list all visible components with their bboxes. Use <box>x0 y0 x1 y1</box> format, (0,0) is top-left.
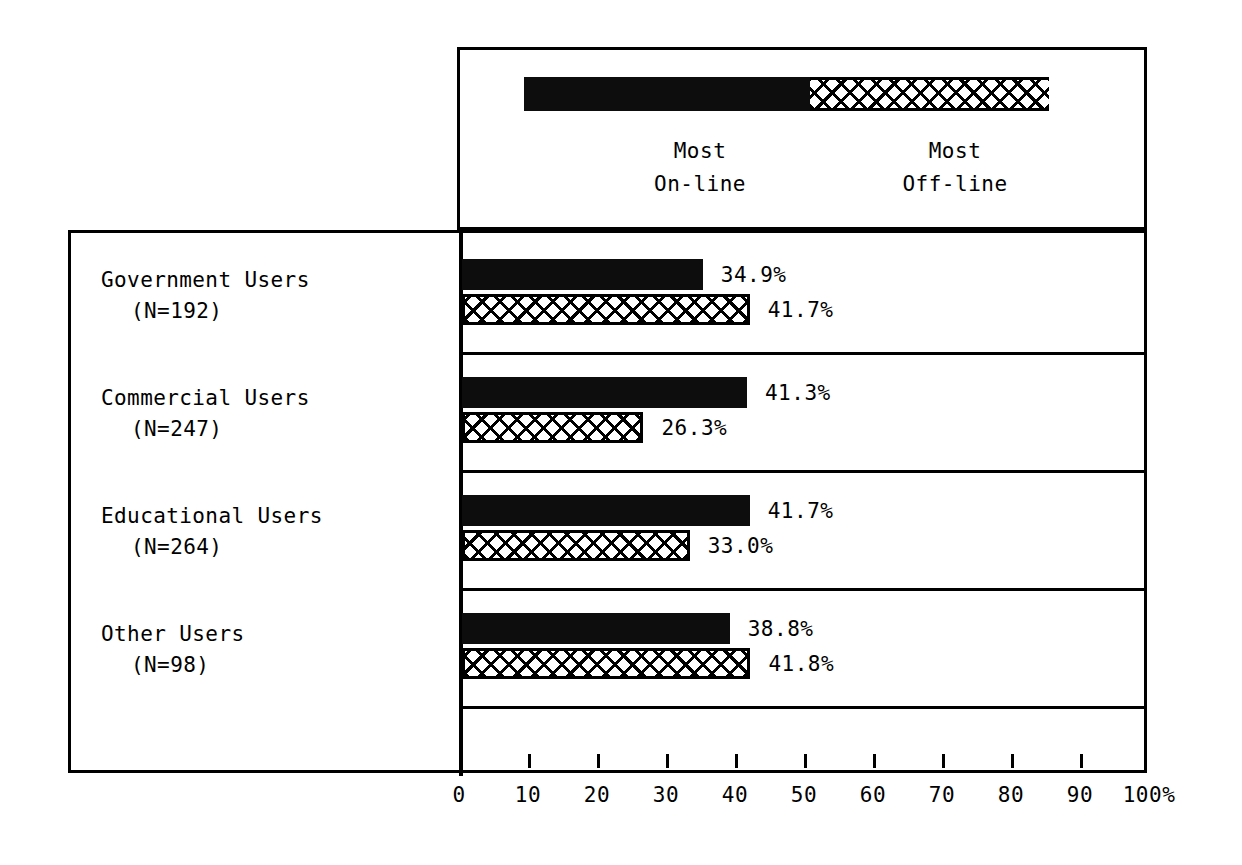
legend-label-most-online-line2: On-line <box>654 172 746 196</box>
x-axis-tick-label: 90 <box>1067 783 1093 807</box>
chart-row-bars: 34.9%41.7% <box>462 237 1144 355</box>
x-axis-tick <box>735 754 738 768</box>
x-axis-tick <box>1011 754 1014 768</box>
chart-row-sample-size: (N=247) <box>71 414 456 445</box>
bar-value-most-online: 38.8% <box>748 617 814 641</box>
bar-most-offline <box>462 530 690 561</box>
bar-most-offline <box>462 294 750 325</box>
legend-label-most-online-line1: Most <box>674 139 727 163</box>
bar-value-most-offline: 26.3% <box>661 416 727 440</box>
legend-label-most-offline: MostOff-line <box>865 135 1045 201</box>
x-axis-tick <box>873 754 876 768</box>
legend-label-most-offline-line1: Most <box>929 139 982 163</box>
bar-group-most-offline: 41.7% <box>462 294 833 325</box>
chart-row-sample-size: (N=264) <box>71 532 456 563</box>
chart-row-bars: 41.7%33.0% <box>462 473 1144 591</box>
chart-rows: Government Users(N=192)34.9%41.7%Commerc… <box>71 233 1144 770</box>
chart-row-category-name: Commercial Users <box>71 383 456 414</box>
x-axis-tick-label: 60 <box>860 783 886 807</box>
bar-group-most-offline: 33.0% <box>462 530 773 561</box>
chart-row-label: Commercial Users(N=247) <box>71 355 456 473</box>
bar-value-most-online: 41.3% <box>765 381 831 405</box>
chart-row: Government Users(N=192)34.9%41.7% <box>71 237 1144 355</box>
chart-row-label: Educational Users(N=264) <box>71 473 456 591</box>
chart-row-category-name: Other Users <box>71 619 456 650</box>
bar-value-most-offline: 41.8% <box>768 652 834 676</box>
bar-value-most-offline: 41.7% <box>768 298 834 322</box>
bar-group-most-offline: 41.8% <box>462 648 834 679</box>
x-axis-tick <box>942 754 945 768</box>
x-axis-tick <box>597 754 600 768</box>
legend-label-most-online: MostOn-line <box>610 135 790 201</box>
bar-most-online <box>462 613 730 644</box>
bar-group-most-online: 34.9% <box>462 259 787 290</box>
x-axis-tick <box>804 754 807 768</box>
chart-row-separator <box>460 706 1144 709</box>
chart-row-label: Other Users(N=98) <box>71 591 456 709</box>
x-axis-tick-label: 30 <box>653 783 679 807</box>
chart-row-sample-size: (N=98) <box>71 650 456 681</box>
chart-plot-frame: Government Users(N=192)34.9%41.7%Commerc… <box>68 230 1147 773</box>
x-axis-tick-label: 0 <box>452 783 465 807</box>
bar-most-offline <box>462 648 750 679</box>
x-axis-tick-label: 20 <box>584 783 610 807</box>
bar-group-most-online: 41.3% <box>462 377 831 408</box>
legend-captions: MostOn-line MostOff-line <box>460 135 1144 205</box>
chart-row: Commercial Users(N=247)41.3%26.3% <box>71 355 1144 473</box>
x-axis-tick-label: 40 <box>722 783 748 807</box>
bar-value-most-online: 41.7% <box>768 499 834 523</box>
bar-most-offline <box>462 412 643 443</box>
chart-row-category-name: Educational Users <box>71 501 456 532</box>
bar-group-most-online: 41.7% <box>462 495 833 526</box>
x-axis-tick-label: 70 <box>929 783 955 807</box>
chart-row-category-name: Government Users <box>71 265 456 296</box>
bar-group-most-online: 38.8% <box>462 613 813 644</box>
chart-row: Educational Users(N=264)41.7%33.0% <box>71 473 1144 591</box>
legend-swatch-most-offline <box>810 77 1049 111</box>
x-axis-tick-label: 100% <box>1123 783 1176 807</box>
legend-label-most-offline-line2: Off-line <box>902 172 1007 196</box>
bar-most-online <box>462 377 747 408</box>
x-axis: 0102030405060708090100% <box>459 771 1149 772</box>
bar-group-most-offline: 26.3% <box>462 412 727 443</box>
x-axis-tick-label: 50 <box>791 783 817 807</box>
chart-row-bars: 41.3%26.3% <box>462 355 1144 473</box>
x-axis-tick <box>666 754 669 768</box>
bar-value-most-offline: 33.0% <box>708 534 774 558</box>
legend-swatch-most-online <box>524 77 810 111</box>
x-axis-tick <box>1080 754 1083 768</box>
bar-value-most-online: 34.9% <box>721 263 787 287</box>
chart-row-label: Government Users(N=192) <box>71 237 456 355</box>
bar-most-online <box>462 495 750 526</box>
chart-row-sample-size: (N=192) <box>71 296 456 327</box>
legend-sample-bar <box>524 77 1049 111</box>
chart-canvas: MostOn-line MostOff-line Government User… <box>0 0 1242 865</box>
chart-row-bars: 38.8%41.8% <box>462 591 1144 709</box>
legend-panel: MostOn-line MostOff-line <box>457 47 1147 230</box>
x-axis-tick-label: 10 <box>515 783 541 807</box>
bar-most-online <box>462 259 703 290</box>
x-axis-tick <box>528 754 531 768</box>
chart-row: Other Users(N=98)38.8%41.8% <box>71 591 1144 709</box>
x-axis-tick-label: 80 <box>998 783 1024 807</box>
